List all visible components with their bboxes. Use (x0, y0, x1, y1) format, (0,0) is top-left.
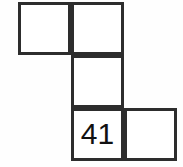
grid-cell-middle-middle[interactable] (71, 55, 124, 108)
grid-cell-bottom-middle-label: 41 (74, 119, 121, 149)
polyomino-figure: 41 (0, 0, 183, 167)
grid-cell-bottom-right[interactable] (124, 108, 177, 161)
grid-cell-top-middle[interactable] (71, 2, 124, 55)
grid-cell-bottom-middle[interactable]: 41 (71, 108, 124, 161)
grid-cell-top-left[interactable] (18, 2, 71, 55)
